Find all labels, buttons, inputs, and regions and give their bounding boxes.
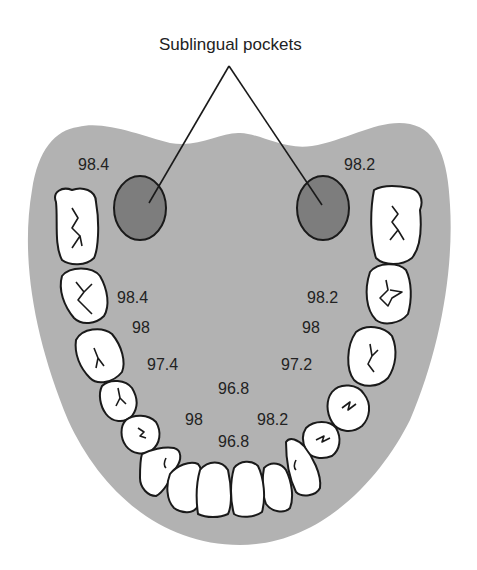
left-molar-2 [55,189,98,265]
temp-right-incisor-lateral: 98.2 [257,412,288,428]
temp-left-incisor-lateral: 98 [185,412,203,428]
temp-right-pocket: 98.2 [344,157,375,173]
temp-right-canine-region: 97.2 [281,357,312,373]
temp-center-upper: 96.8 [218,381,249,397]
temp-right-premolar: 98 [302,320,320,336]
left-incisor-central-1 [197,463,231,518]
temp-left-premolar: 98 [132,320,150,336]
sublingual-pockets-title: Sublingual pockets [159,36,302,53]
temp-left-pocket: 98.4 [78,157,109,173]
left-sublingual-pocket [114,176,166,240]
temp-left-canine-region: 97.4 [147,357,178,373]
temp-right-molar: 98.2 [307,290,338,306]
mouth-floor-diagram [0,0,477,570]
right-molar-2 [371,186,421,264]
right-incisor-central-1 [231,462,264,517]
right-sublingual-pocket [297,176,349,240]
right-molar-1 [367,264,411,323]
temp-left-molar: 98.4 [117,290,148,306]
temp-center-lower: 96.8 [218,434,249,450]
